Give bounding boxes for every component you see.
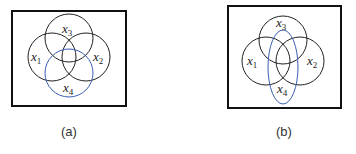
panel-b: x3 x1 x2 x4: [228, 6, 341, 108]
label-x4: x4: [276, 81, 288, 98]
label-x4: x4: [62, 80, 74, 97]
label-x2: x2: [306, 53, 317, 70]
label-x1: x1: [246, 53, 257, 70]
caption-a: (a): [61, 124, 77, 139]
label-x1: x1: [30, 49, 41, 66]
venn-figure: x3 x1 x2 x4 x3 x1 x2 x4: [0, 0, 356, 154]
caption-b: (b): [276, 124, 292, 139]
label-x3: x3: [61, 21, 73, 38]
label-x2: x2: [92, 49, 103, 66]
label-x3: x3: [275, 15, 287, 32]
panel-a: x3 x1 x2 x4: [12, 11, 126, 106]
set-x3-circle: [45, 14, 93, 62]
